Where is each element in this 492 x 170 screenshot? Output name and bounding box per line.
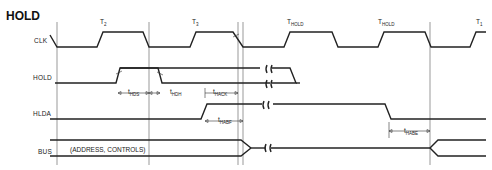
- bus-waveform-top: [50, 140, 251, 148]
- hold-waveform-high: [120, 68, 270, 83]
- bus-waveform-reenable: [430, 140, 486, 148]
- reference-lines: [57, 22, 430, 165]
- bus-waveform-bottom: [50, 148, 251, 156]
- hold-waveform-low: [55, 68, 260, 83]
- hlda-waveform: [50, 104, 262, 119]
- timing-diagram: [0, 0, 492, 170]
- clk-waveform: [50, 32, 486, 47]
